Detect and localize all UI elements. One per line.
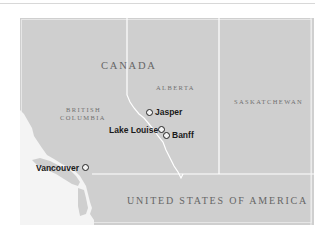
label-alberta: Alberta	[156, 84, 195, 91]
label-usa: UNITED STATES OF AMERICA	[127, 195, 308, 206]
city-label-vancouver[interactable]: Vancouver	[36, 163, 79, 173]
city-label-banff[interactable]: Banff	[172, 130, 194, 140]
label-canada: CANADA	[101, 60, 157, 71]
label-british-columbia-line2: Columbia	[60, 114, 106, 121]
label-british-columbia-line1: British	[66, 106, 101, 113]
city-label-lake-louise[interactable]: Lake Louise	[109, 125, 158, 135]
map-graphic	[20, 18, 314, 225]
city-marker-icon[interactable]	[146, 109, 153, 116]
top-rule	[0, 3, 315, 4]
city-marker-icon[interactable]	[82, 164, 89, 171]
city-label-jasper[interactable]: Jasper	[155, 107, 182, 117]
label-saskatchewan: Saskatchewan	[234, 98, 303, 105]
map-panel: CANADA Alberta British Columbia Saskatch…	[20, 18, 314, 225]
city-marker-icon[interactable]	[163, 132, 170, 139]
